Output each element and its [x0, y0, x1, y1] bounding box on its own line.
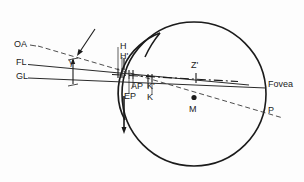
label-far-point-z-prime: Zʹ	[191, 61, 198, 70]
gamma-lower-tick-bottom	[68, 84, 78, 86]
eye-schematic-svg	[0, 0, 304, 182]
label-principal-point-h-prime: Hʹ	[120, 52, 128, 61]
label-principal-point-h: H	[120, 42, 127, 51]
diagram-canvas: OA FL GL γ H Hʹ EP AP Kʹ K Zʹ M Fovea P	[0, 0, 304, 182]
center-of-rotation-dot	[191, 95, 196, 100]
gamma-upper-arrow-shaft	[79, 29, 95, 53]
label-entrance-pupil: EP	[124, 92, 136, 101]
label-gl-line: GL	[16, 72, 28, 81]
oa-label-leader	[30, 45, 36, 46]
label-angle-gamma: γ	[69, 58, 74, 67]
optical-axis-line	[38, 46, 283, 118]
label-optical-axis: OA	[14, 40, 27, 49]
label-nodal-point-k: K	[147, 93, 153, 102]
label-fixation-line: FL	[16, 58, 27, 67]
label-fovea: Fovea	[268, 80, 293, 89]
iris-lower-arrowhead	[122, 127, 127, 134]
gamma-upper-arrowhead	[77, 49, 83, 56]
label-center-of-rotation: M	[189, 105, 197, 114]
label-posterior-pole: P	[268, 106, 274, 115]
eyeball-globe-circle	[122, 22, 266, 166]
label-exit-pupil: AP	[131, 82, 143, 91]
label-nodal-point-k-prime: Kʹ	[147, 82, 155, 91]
